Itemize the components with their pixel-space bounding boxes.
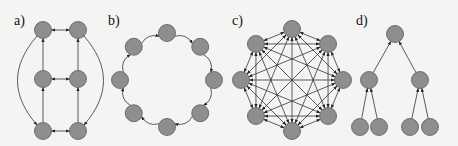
panel-b-label: b) xyxy=(108,13,120,29)
graph-node xyxy=(284,21,301,38)
edge-arrow xyxy=(422,88,428,118)
graph-node xyxy=(112,72,129,89)
graph-node xyxy=(247,108,264,125)
panel-c-label: c) xyxy=(232,13,243,29)
ring-edge-arrow xyxy=(123,55,131,73)
graph-node xyxy=(412,72,429,89)
graph-node xyxy=(192,38,209,55)
graph-node xyxy=(352,119,369,136)
ring-edge-arrow xyxy=(175,36,193,44)
ring-edge-arrow xyxy=(123,88,131,106)
graph-node xyxy=(35,22,52,39)
graph-node xyxy=(159,25,176,42)
panel-a-label: a) xyxy=(14,13,25,29)
graph-node xyxy=(320,108,337,125)
graph-node xyxy=(247,35,264,52)
graph-node xyxy=(70,22,87,39)
graph-node xyxy=(70,71,87,88)
curved-edge-arrow xyxy=(18,36,38,125)
ring-edge-arrow xyxy=(203,88,211,106)
graph-node xyxy=(335,72,352,89)
curved-edge-arrow xyxy=(84,36,104,125)
graph-node xyxy=(70,123,87,140)
ring-edge-arrow xyxy=(203,55,211,73)
graph-node xyxy=(387,26,404,43)
graph-node xyxy=(125,105,142,122)
edge-arrow xyxy=(362,88,368,118)
panel-d-tree-graph xyxy=(352,26,439,136)
graph-node xyxy=(192,105,209,122)
edge-arrow xyxy=(373,41,391,72)
graph-node xyxy=(206,72,223,89)
panel-d-label: d) xyxy=(356,13,368,29)
panel-c-complete-graph xyxy=(233,21,352,140)
ring-edge-arrow xyxy=(175,116,193,124)
graph-node xyxy=(284,123,301,140)
ring-edge-arrow xyxy=(142,116,160,124)
graph-node xyxy=(320,35,337,52)
graph-node xyxy=(35,71,52,88)
panel-a-ladder-graph xyxy=(18,22,104,140)
ring-edge-arrow xyxy=(142,36,160,44)
edge-arrow xyxy=(371,88,377,118)
graph-node xyxy=(159,119,176,136)
graph-node xyxy=(422,119,439,136)
graph-node xyxy=(361,72,378,89)
graph-node xyxy=(233,72,250,89)
graph-node xyxy=(402,119,419,136)
edge-arrow xyxy=(399,41,416,72)
edge-arrow xyxy=(412,88,418,118)
network-topology-diagram: a) b) c) d) xyxy=(0,0,458,146)
graph-node xyxy=(371,119,388,136)
graph-node xyxy=(35,123,52,140)
graph-node xyxy=(125,38,142,55)
panel-b-ring-graph xyxy=(112,25,223,136)
